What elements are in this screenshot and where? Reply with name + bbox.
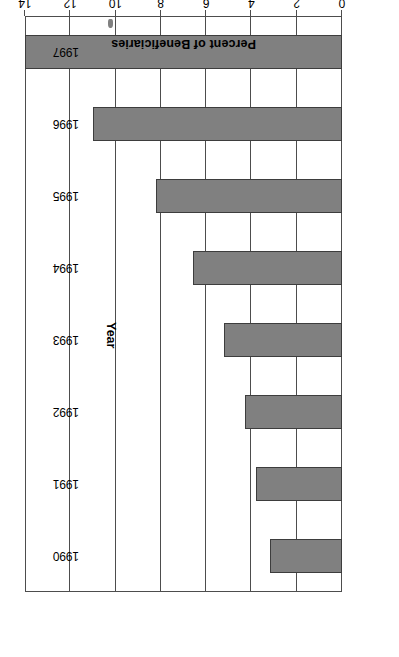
- bar-1996: [93, 107, 342, 140]
- bar-1995: [156, 179, 342, 212]
- gridline: [296, 16, 297, 592]
- plot-area: [25, 16, 342, 592]
- x-axis-tick-mark: [250, 10, 251, 16]
- gridline: [69, 16, 70, 592]
- category-label-1992: 1992: [25, 405, 79, 419]
- category-label-1991: 1991: [25, 477, 79, 491]
- x-axis-tick-label: 2: [277, 0, 317, 10]
- gridline: [160, 16, 161, 592]
- x-axis-tick-label: 10: [96, 0, 136, 10]
- scan-smudge-artifact: [108, 19, 113, 28]
- x-axis-tick-mark: [341, 10, 342, 16]
- gridline: [250, 16, 251, 592]
- category-label-1990: 1990: [25, 549, 79, 563]
- x-axis-tick-mark: [160, 10, 161, 16]
- category-label-1995: 1995: [25, 189, 79, 203]
- x-axis-tick-mark: [115, 10, 116, 16]
- bar-1992: [245, 395, 342, 428]
- bar-1994: [193, 251, 342, 284]
- bar-1990: [270, 539, 342, 572]
- gridline: [115, 16, 116, 592]
- bar-1991: [256, 467, 342, 500]
- x-axis-tick-label: 8: [141, 0, 181, 10]
- category-label-1993: 1993: [25, 333, 79, 347]
- y-axis-title: Year: [104, 322, 118, 348]
- category-label-1994: 1994: [25, 261, 79, 275]
- x-axis-tick-mark: [205, 10, 206, 16]
- x-axis-tick-label: 4: [231, 0, 271, 10]
- x-axis-tick-label: 14: [5, 0, 45, 10]
- x-axis-tick-mark: [69, 10, 70, 16]
- x-axis-tick-mark: [24, 10, 25, 16]
- x-axis-title: Percent of Beneficiaries: [25, 37, 342, 51]
- rotated-figure-container: 02468101214 1990199119921993199419951996…: [0, 0, 399, 657]
- x-axis-tick-label: 12: [50, 0, 90, 10]
- bar-1993: [224, 323, 342, 356]
- x-axis-tick-mark: [296, 10, 297, 16]
- category-label-1996: 1996: [25, 117, 79, 131]
- x-axis-tick-label: 6: [186, 0, 226, 10]
- x-axis-tick-label: 0: [322, 0, 362, 10]
- gridline: [205, 16, 206, 592]
